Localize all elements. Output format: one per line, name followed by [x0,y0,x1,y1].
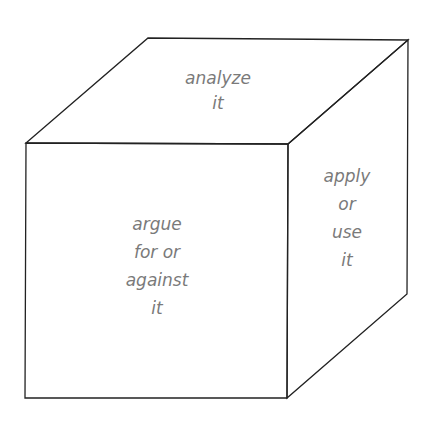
cube-edges [25,38,408,398]
top-label-line-1: analyze [185,68,251,88]
right-label-line-2: or [338,194,356,214]
right-face-label: apply or use it [324,166,372,270]
right-label-line-4: it [341,250,354,270]
front-label-line-1: argue [132,214,181,234]
top-face [26,38,408,144]
top-label-line-2: it [212,93,225,113]
right-label-line-1: apply [324,166,372,186]
front-label-line-3: against [126,270,190,290]
front-label-line-4: it [151,298,164,318]
cube-diagram: analyze it argue for or against it apply… [0,0,427,427]
right-label-line-3: use [332,222,362,242]
front-face-label: argue for or against it [126,214,190,318]
front-label-line-2: for or [134,242,181,262]
right-face [287,40,408,398]
top-face-label: analyze it [185,68,251,113]
